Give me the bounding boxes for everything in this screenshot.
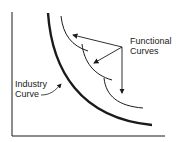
functional-curve-3 bbox=[104, 78, 143, 108]
label-line: Functional bbox=[130, 36, 172, 46]
label-line: Industry bbox=[15, 79, 47, 89]
label-line: Curve bbox=[15, 89, 47, 99]
diagram-canvas bbox=[0, 0, 183, 142]
functional-curves-label: Functional Curves bbox=[130, 36, 172, 56]
arrow-1 bbox=[73, 35, 122, 47]
functional-curve-2 bbox=[82, 44, 112, 80]
industry-curve-label: Industry Curve bbox=[15, 79, 47, 99]
label-line: Curves bbox=[130, 46, 172, 56]
arrow-2 bbox=[94, 47, 122, 63]
functional-curve-1 bbox=[61, 16, 88, 51]
industry-curve bbox=[48, 13, 152, 125]
